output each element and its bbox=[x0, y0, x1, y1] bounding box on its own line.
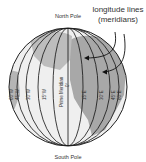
meridian-label-60w: 60°W bbox=[9, 88, 14, 100]
meridian-label-15w: 15°W bbox=[42, 88, 47, 100]
meridian-label-45e: 45°E bbox=[111, 90, 116, 100]
prime-meridian-label: Prime Meridian bbox=[59, 76, 64, 107]
meridian-label-15e: 15°E bbox=[82, 90, 87, 100]
meridian-label-30w: 30°W bbox=[26, 88, 31, 100]
south-pole-label: South Pole bbox=[55, 154, 82, 160]
meridian-label-45w: 45°W bbox=[15, 88, 20, 100]
subtitle-label: (meridians) bbox=[98, 15, 138, 24]
meridian-label-30e: 30°E bbox=[99, 90, 104, 100]
globe-diagram: North Pole South Pole longitude lines (m… bbox=[0, 0, 146, 162]
prime-meridian-deg: 0° bbox=[65, 82, 70, 87]
north-pole-label: North Pole bbox=[55, 13, 81, 19]
title-label: longitude lines bbox=[92, 5, 143, 14]
meridian-label-60e: 60°E bbox=[117, 90, 122, 100]
